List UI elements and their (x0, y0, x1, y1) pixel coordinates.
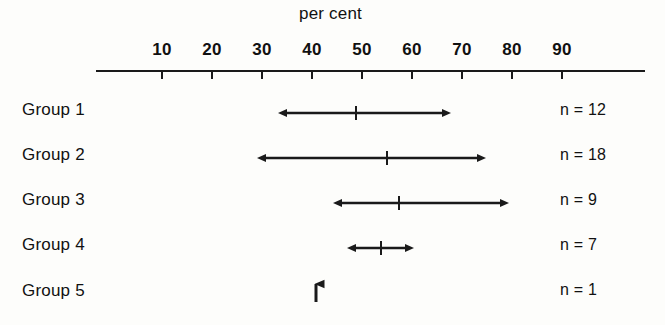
x-tick-label-10: 10 (152, 40, 172, 60)
row-count-group-4: n = 7 (560, 236, 597, 254)
row-count-group-3: n = 9 (560, 191, 597, 209)
x-tick-label-90: 90 (552, 40, 572, 60)
row-count-group-2: n = 18 (560, 146, 606, 164)
x-tick-60 (411, 72, 413, 79)
x-tick-70 (461, 72, 463, 79)
axis-title: per cent (299, 4, 362, 24)
row-count-group-1: n = 12 (560, 101, 606, 119)
x-tick-label-30: 30 (252, 40, 272, 60)
x-tick-10 (161, 72, 163, 79)
x-tick-80 (511, 72, 513, 79)
x-tick-label-60: 60 (402, 40, 422, 60)
row-count-group-5: n = 1 (560, 281, 597, 299)
x-tick-40 (311, 72, 313, 79)
x-tick-90 (561, 72, 563, 79)
range-chart: per cent 10 20 30 40 50 60 70 80 90 Grou… (0, 0, 665, 325)
x-tick-label-70: 70 (452, 40, 472, 60)
x-tick-50 (361, 72, 363, 79)
x-tick-label-50: 50 (352, 40, 372, 60)
x-tick-20 (211, 72, 213, 79)
x-tick-label-20: 20 (202, 40, 222, 60)
x-tick-30 (261, 72, 263, 79)
x-tick-label-40: 40 (302, 40, 322, 60)
x-tick-label-80: 80 (502, 40, 522, 60)
